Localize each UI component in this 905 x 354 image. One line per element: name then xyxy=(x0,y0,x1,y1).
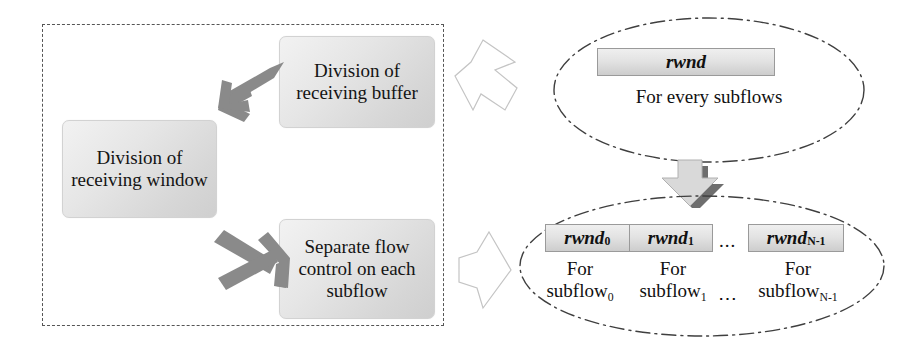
figure-canvas: Division of receiving buffer Division of… xyxy=(0,0,905,354)
box-division-receiving-buffer[interactable]: Division of receiving buffer xyxy=(279,36,435,128)
caption-subflow-n-1-subscript: N-1 xyxy=(819,291,837,304)
rwnd-segment-n-1-label: rwnd xyxy=(767,227,807,249)
box-line-2: control on each xyxy=(298,258,415,280)
box-line-1: Separate flow xyxy=(298,236,415,258)
caption-subflow-1-subscript: 1 xyxy=(701,291,707,304)
rwnd-segment-0-label: rwnd xyxy=(564,227,604,249)
rwnd-segment-0[interactable]: rwnd0 xyxy=(546,225,629,251)
rwnd-segment-1-label: rwnd xyxy=(648,227,688,249)
rwnd-segment-n-1[interactable]: rwndN-1 xyxy=(748,224,844,252)
box-separate-flow-control[interactable]: Separate flow control on each subflow xyxy=(279,219,435,319)
box-line-2: receiving buffer xyxy=(296,82,418,104)
box-line-1: Division of xyxy=(71,147,208,169)
caption-subflow-1: For subflow1 xyxy=(627,258,719,303)
caption-subflow-n-1: For subflowN-1 xyxy=(744,258,852,303)
rwnd-segment-n-1-subscript: N-1 xyxy=(807,235,825,249)
box-division-receiving-window[interactable]: Division of receiving window xyxy=(62,120,217,218)
caption-subflow-1-line1: For xyxy=(627,258,719,280)
hollow-arrow-bottom-icon xyxy=(449,228,523,312)
caption-ellipsis: ⋯ xyxy=(718,287,738,310)
caption-subflow-1-word: subflow xyxy=(639,280,700,301)
caption-subflow-0-word: subflow xyxy=(546,280,607,301)
rwnd-segment-1[interactable]: rwnd1 xyxy=(629,225,713,251)
top-group-caption: For every subflows xyxy=(549,86,869,108)
rwnd-bar-total[interactable]: rwnd xyxy=(597,48,775,76)
hollow-arrow-top-icon xyxy=(451,36,523,114)
box-line-2: receiving window xyxy=(71,169,208,191)
caption-subflow-0-line2: subflow0 xyxy=(534,280,626,302)
arrow-window-to-subflow-icon xyxy=(212,228,292,294)
caption-subflow-0-line1: For xyxy=(534,258,626,280)
caption-subflow-n-1-word: subflow xyxy=(758,280,819,301)
rwnd-segment-bar-group[interactable]: rwnd0 rwnd1 xyxy=(545,224,713,252)
caption-subflow-n-1-line2: subflowN-1 xyxy=(744,280,852,302)
box-line-1: Division of xyxy=(296,60,418,82)
box-line-3: subflow xyxy=(298,280,415,302)
rwnd-segment-0-subscript: 0 xyxy=(605,235,611,249)
arrow-buffer-to-window-icon xyxy=(216,56,288,124)
caption-subflow-0-subscript: 0 xyxy=(608,291,614,304)
caption-subflow-1-line2: subflow1 xyxy=(627,280,719,302)
caption-subflow-0: For subflow0 xyxy=(534,258,626,303)
rwnd-bar-ellipsis: ... xyxy=(719,230,736,252)
rwnd-segment-1-subscript: 1 xyxy=(688,235,694,249)
rwnd-bar-label: rwnd xyxy=(666,51,706,73)
caption-subflow-n-1-line1: For xyxy=(744,258,852,280)
